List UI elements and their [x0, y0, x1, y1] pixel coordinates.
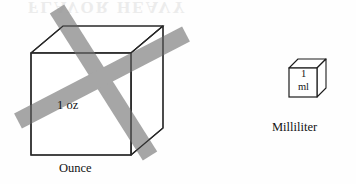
volume-comparison-figure: FLAVOR HEAVY [0, 0, 356, 184]
milliliter-value-label: 1 ml [289, 67, 318, 93]
ounce-caption: Ounce [59, 161, 92, 176]
milliliter-value-number: 1 [289, 67, 318, 80]
ounce-value-label: 1 oz [57, 98, 78, 113]
milliliter-caption: Milliliter [272, 120, 317, 135]
milliliter-value-unit: ml [289, 80, 318, 93]
